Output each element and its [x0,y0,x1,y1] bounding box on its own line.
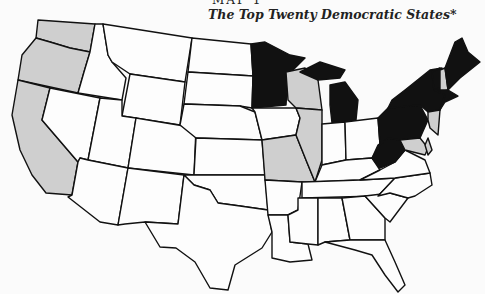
state-south-dakota [184,72,253,108]
state-michigan-lower [330,82,358,123]
state-florida [325,240,405,292]
state-new-mexico [118,168,184,225]
state-arizona [68,158,128,225]
us-map [0,0,485,294]
state-nebraska [180,104,262,140]
state-vermont [432,68,440,90]
state-north-dakota [188,38,253,76]
state-arkansas [265,180,302,215]
state-indiana [322,122,346,165]
state-new-jersey [428,110,440,135]
state-maine [445,38,480,90]
state-kansas [194,138,265,175]
